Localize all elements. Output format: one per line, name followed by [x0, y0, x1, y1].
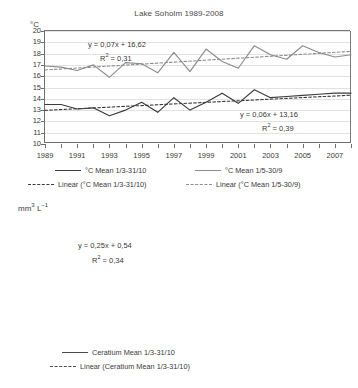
x-tick-mark [335, 144, 336, 148]
unit-mm: mm [18, 204, 31, 213]
x-tick-label: 2001 [230, 151, 247, 160]
x-tick-mark [126, 144, 127, 148]
y-tick-label: 18 [33, 50, 41, 58]
legend-item: Linear (Ceratium Mean 1/3-31/10) [50, 362, 190, 371]
series-line [45, 46, 351, 78]
y-tick-label: 13 [33, 106, 41, 114]
x-tick-label: 1999 [198, 151, 215, 160]
x-tick-mark [61, 144, 62, 148]
legend-label: °C Mean 1/3-31/10 [85, 166, 146, 175]
x-tick-mark [109, 144, 110, 148]
y-tick-label: 16 [33, 72, 41, 80]
y-tick-label: 12 [33, 118, 41, 126]
r2-lower-top: R2 = 0,39 [262, 122, 294, 133]
x-tick-label: 1993 [101, 151, 118, 160]
legend-label: Linear (°C Mean 1/5-30/9) [216, 180, 300, 189]
y-tick-label: 14 [33, 95, 41, 103]
legend-item: °C Mean 1/5-30/9 [195, 166, 282, 175]
r2-lower-value: = 0,39 [270, 124, 293, 133]
equation-lower-top: y = 0,06x + 13,16 [240, 110, 298, 119]
x-tick-label: 1995 [133, 151, 150, 160]
x-tick-mark [190, 144, 191, 148]
legend-swatch-line [50, 366, 76, 367]
dashed-line-swatch [186, 181, 212, 188]
legend-item: Ceratium Mean 1/3-31/10 [62, 348, 175, 357]
y-axis-unit-label-bottom: mm3 L−1 [18, 202, 48, 213]
chart-title: Lake Soholm 1989-2008 [0, 9, 358, 18]
x-tick-mark [142, 144, 143, 148]
x-tick-label: 1989 [37, 151, 54, 160]
temperature-panel: Lake Soholm 1989-2008 °C 101112131415161… [0, 0, 358, 196]
x-tick-label: 2005 [294, 151, 311, 160]
legend-item: Linear (°C Mean 1/3-31/10) [28, 180, 147, 189]
legend-label: °C Mean 1/5-30/9 [225, 166, 282, 175]
ceratium-panel: mm3 L−1 0510152025303540 198919911993199… [0, 196, 358, 388]
x-tick-mark [319, 144, 320, 148]
x-tick-mark [222, 144, 223, 148]
x-tick-mark [351, 144, 352, 148]
solid-line-swatch [55, 167, 81, 174]
x-tick-mark [254, 144, 255, 148]
x-tick-mark [303, 144, 304, 148]
r2-upper-value: = 0,31 [108, 54, 131, 63]
r2-upper-top: R2 = 0,31 [100, 52, 132, 63]
legend-bottom: Ceratium Mean 1/3-31/10Linear (Ceratium … [0, 348, 358, 376]
r2-bottom-value: = 0,34 [100, 256, 123, 265]
dashed-line-swatch [28, 181, 54, 188]
legend-item: °C Mean 1/3-31/10 [55, 166, 146, 175]
x-tick-mark [174, 144, 175, 148]
y-tick-label: 11 [33, 129, 41, 137]
x-tick-mark [270, 144, 271, 148]
x-tick-label: 1991 [69, 151, 86, 160]
y-tick-label: 10 [33, 140, 41, 148]
x-tick-mark [158, 144, 159, 148]
solid-line-swatch [62, 349, 88, 356]
y-tick-label: 20 [33, 27, 41, 35]
x-tick-mark [238, 144, 239, 148]
r2-bottom: R2 = 0,34 [92, 254, 124, 265]
legend-swatch-line [55, 170, 81, 171]
legend-swatch-line [195, 170, 221, 171]
x-tick-mark [287, 144, 288, 148]
x-tick-mark [77, 144, 78, 148]
legend-label: Linear (°C Mean 1/3-31/10) [58, 180, 147, 189]
figure-root: Lake Soholm 1989-2008 °C 101112131415161… [0, 0, 358, 388]
dashed-line-swatch [50, 363, 76, 370]
x-tick-mark [206, 144, 207, 148]
equation-bottom: y = 0,25x + 0,54 [78, 241, 132, 250]
legend-label: Linear (Ceratium Mean 1/3-31/10) [80, 362, 190, 371]
x-tick-label: 2007 [327, 151, 344, 160]
y-tick-label: 19 [33, 39, 41, 47]
solid-line-swatch [195, 167, 221, 174]
legend-swatch-line [62, 352, 88, 353]
x-tick-mark [45, 144, 46, 148]
legend-top: °C Mean 1/3-31/10°C Mean 1/5-30/9Linear … [0, 166, 358, 194]
legend-swatch-line [186, 184, 212, 185]
series-line [45, 95, 351, 110]
legend-swatch-line [28, 184, 54, 185]
series-line [45, 51, 351, 70]
x-tick-mark [93, 144, 94, 148]
equation-upper-top: y = 0,07x + 16,62 [88, 40, 146, 49]
x-tick-label: 1997 [165, 151, 182, 160]
y-tick-label: 15 [33, 84, 41, 92]
x-tick-label: 2003 [262, 151, 279, 160]
y-tick-label: 17 [33, 61, 41, 69]
legend-label: Ceratium Mean 1/3-31/10 [92, 348, 175, 357]
unit-inverse: −1 [41, 202, 48, 208]
legend-item: Linear (°C Mean 1/5-30/9) [186, 180, 300, 189]
